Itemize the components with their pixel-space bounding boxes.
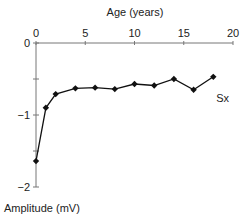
data-point-marker bbox=[112, 86, 118, 92]
x-tick-label: 20 bbox=[227, 27, 239, 39]
data-point-marker bbox=[72, 85, 78, 91]
data-point-marker bbox=[92, 84, 98, 90]
data-point-marker bbox=[171, 76, 177, 82]
series-annotation: Sx bbox=[216, 92, 229, 104]
line-chart: 051015200−1−2 Age (years) Amplitude (mV)… bbox=[0, 0, 248, 220]
x-tick-label: 0 bbox=[33, 27, 39, 39]
axes: 051015200−1−2 bbox=[17, 27, 239, 193]
x-tick-label: 10 bbox=[128, 27, 140, 39]
x-axis-label: Age (years) bbox=[107, 6, 164, 18]
annotations: Sx bbox=[216, 92, 229, 104]
data-point-marker bbox=[210, 74, 216, 80]
y-axis-label: Amplitude (mV) bbox=[4, 202, 80, 214]
data-point-marker bbox=[151, 82, 157, 88]
series-line bbox=[36, 77, 213, 161]
y-tick-label: −2 bbox=[17, 181, 30, 193]
data-point-marker bbox=[131, 81, 137, 87]
data-series bbox=[33, 74, 217, 165]
y-tick-label: 0 bbox=[24, 37, 30, 49]
data-point-marker bbox=[33, 158, 39, 164]
x-tick-label: 5 bbox=[82, 27, 88, 39]
x-tick-label: 15 bbox=[178, 27, 190, 39]
y-tick-label: −1 bbox=[17, 109, 30, 121]
